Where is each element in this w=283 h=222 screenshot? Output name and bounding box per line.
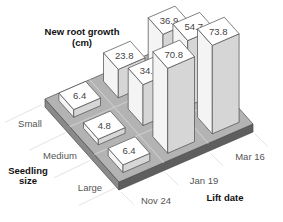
bar-right-face [168, 57, 195, 154]
chart-title-line-1: New root growth [45, 26, 120, 37]
bar-value-label: 73.8 [209, 26, 228, 37]
row-label-large: Large [78, 182, 102, 193]
row-guide-line [29, 133, 65, 150]
row-axis-title-line-2: size [19, 175, 37, 186]
row-label-medium: Medium [43, 150, 77, 161]
chart: 36.923.854.76.434.173.84.870.86.4 New ro… [0, 0, 283, 222]
col-guide-line [166, 173, 179, 186]
bar-value-label: 4.8 [98, 120, 111, 131]
row-guide-line [54, 160, 90, 177]
col-guide-line [210, 153, 223, 166]
col-guide-line [255, 134, 268, 147]
row-label-small: Small [18, 118, 42, 129]
bar-large-jan-19: 70.8 [153, 40, 195, 153]
col-guide-line [121, 192, 134, 205]
bar-left-face [153, 52, 168, 154]
bar-value-label: 23.8 [115, 50, 134, 61]
bar-value-label: 70.8 [164, 49, 183, 60]
bar-left-face [198, 29, 213, 134]
bar-large-mar-16: 73.8 [198, 17, 240, 134]
col-label-mar-16: Mar 16 [235, 151, 265, 162]
col-axis-title: Lift date [207, 192, 244, 203]
col-label-nov-24: Nov 24 [141, 195, 171, 206]
bar-right-face [212, 34, 239, 134]
chart-title-line-2: (cm) [72, 37, 92, 48]
bar-value-label: 6.4 [73, 90, 86, 101]
bar-value-label: 6.4 [122, 145, 135, 156]
col-label-jan-19: Jan 19 [190, 175, 219, 186]
